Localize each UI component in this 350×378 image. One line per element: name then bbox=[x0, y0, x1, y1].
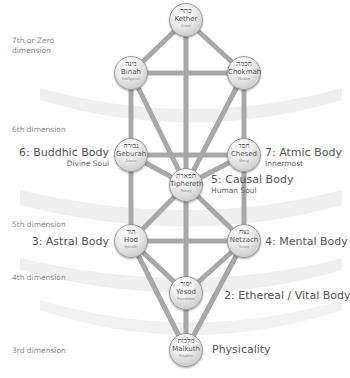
dimension-label-7th-line2: dimension bbox=[12, 46, 51, 55]
hebrew-text: הוד bbox=[115, 228, 147, 236]
sephirah-chesed: חסד Chesed Mercy bbox=[227, 138, 261, 172]
sephirah-malkuth: מלכות Malkuth Kingdom bbox=[169, 333, 203, 367]
body-title: 4: Mental Body bbox=[265, 235, 348, 248]
sephirah-meaning: Wisdom bbox=[228, 77, 260, 82]
hebrew-text: נצח bbox=[228, 228, 260, 236]
sephirah-netzach: נצח Netzach Victory bbox=[227, 224, 261, 258]
body-subtitle: Innermost bbox=[265, 159, 342, 169]
dimension-label-7th: 7th or Zero dimension bbox=[12, 36, 54, 56]
body-subtitle: Divine Soul bbox=[19, 159, 109, 169]
sephirah-meaning: Victory bbox=[228, 245, 260, 250]
body-label-ethereal: 2: Ethereal / Vital Body bbox=[224, 289, 350, 302]
hebrew-text: מלכות bbox=[170, 337, 202, 345]
dimension-label-6th: 6th dimension bbox=[12, 125, 66, 135]
sephirah-name: Chokmah bbox=[228, 68, 260, 77]
sephirah-yesod: יסוד Yesod Foundation bbox=[169, 276, 203, 310]
sephirah-chokmah: חכמה Chokmah Wisdom bbox=[227, 56, 261, 90]
sephirah-kether: כתר Kether Crown bbox=[169, 3, 203, 37]
sephirah-name: Malkuth bbox=[170, 345, 202, 354]
sephirah-meaning: Foundation bbox=[170, 297, 202, 302]
sephirah-meaning: Kingdom bbox=[170, 354, 202, 359]
hebrew-text: יסוד bbox=[170, 280, 202, 288]
dimension-label-5th: 5th dimension bbox=[12, 220, 66, 230]
hebrew-text: גבורה bbox=[115, 142, 147, 150]
body-title: 5: Causal Body bbox=[211, 173, 293, 186]
sephirah-meaning: Justice bbox=[115, 159, 147, 164]
sephirah-hod: הוד Hod Splendor bbox=[114, 224, 148, 258]
sephirah-meaning: Crown bbox=[170, 24, 202, 29]
sephirah-meaning: Splendor bbox=[115, 245, 147, 250]
dimension-label-4th: 4th dimension bbox=[12, 273, 66, 283]
sephirah-name: Tiphereth bbox=[170, 180, 202, 189]
body-title: 3: Astral Body bbox=[32, 235, 109, 248]
dimension-label-3rd: 3rd dimension bbox=[12, 346, 66, 356]
hebrew-text: חסד bbox=[228, 142, 260, 150]
body-label-buddhic: 6: Buddhic Body Divine Soul bbox=[19, 146, 109, 169]
sephirah-meaning: Beauty bbox=[170, 189, 202, 194]
sephirah-name: Kether bbox=[170, 15, 202, 24]
hebrew-text: חכמה bbox=[228, 60, 260, 68]
body-label-causal: 5: Causal Body Human Soul bbox=[211, 173, 293, 196]
sephirah-meaning: Mercy bbox=[228, 159, 260, 164]
sephirah-name: Chesed bbox=[228, 150, 260, 159]
sephirah-name: Hod bbox=[115, 236, 147, 245]
hebrew-text: תפארת bbox=[170, 172, 202, 180]
body-title: 2: Ethereal / Vital Body bbox=[224, 289, 350, 302]
body-title: 7: Atmic Body bbox=[265, 146, 342, 159]
dimension-label-7th-line1: 7th or Zero bbox=[12, 36, 54, 45]
hebrew-text: כתר bbox=[170, 7, 202, 15]
body-title: 6: Buddhic Body bbox=[19, 146, 109, 159]
body-subtitle: Human Soul bbox=[211, 186, 293, 196]
sephirah-tiphereth: תפארת Tiphereth Beauty bbox=[169, 168, 203, 202]
sephirah-name: Yesod bbox=[170, 288, 202, 297]
sephirah-name: Binah bbox=[115, 68, 147, 77]
body-label-physicality: Physicality bbox=[212, 343, 271, 356]
body-title: Physicality bbox=[212, 343, 271, 356]
sephirah-binah: בינה Binah Intelligence bbox=[114, 56, 148, 90]
sephirah-meaning: Intelligence bbox=[115, 77, 147, 82]
sephirah-geburah: גבורה Geburah Justice bbox=[114, 138, 148, 172]
sephirah-name: Netzach bbox=[228, 236, 260, 245]
body-label-astral: 3: Astral Body bbox=[32, 235, 109, 248]
sephirah-name: Geburah bbox=[115, 150, 147, 159]
body-label-mental: 4: Mental Body bbox=[265, 235, 348, 248]
hebrew-text: בינה bbox=[115, 60, 147, 68]
body-label-atmic: 7: Atmic Body Innermost bbox=[265, 146, 342, 169]
